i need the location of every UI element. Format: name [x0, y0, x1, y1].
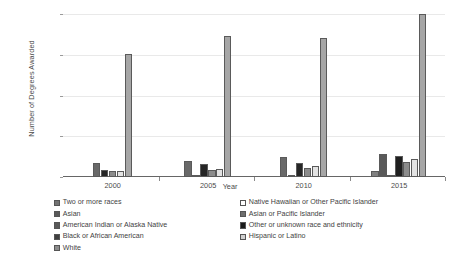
legend-swatch-icon: [54, 234, 60, 240]
legend-label: Asian or Pacific Islander: [249, 211, 325, 218]
legend-column-left: Two or more racesAsianAmerican Indian or…: [54, 197, 167, 254]
bar: [379, 154, 386, 177]
x-axis-title: Year: [0, 182, 460, 191]
bar: [387, 175, 394, 177]
bar: [192, 175, 199, 177]
bar: [184, 161, 191, 177]
legend-swatch-icon: [240, 234, 246, 240]
legend-item[interactable]: White: [54, 243, 167, 254]
legend-swatch-icon: [54, 200, 60, 206]
bar: [411, 159, 418, 177]
legend-item[interactable]: American Indian or Alaska Native: [54, 220, 167, 231]
bar-group-2010: 2010: [280, 14, 328, 177]
legend-swatch-icon: [54, 245, 60, 251]
group-bars: [371, 14, 427, 177]
y-tick-mark: [60, 96, 63, 97]
bar: [395, 156, 402, 177]
bar: [403, 162, 410, 177]
bar: [109, 171, 116, 177]
bar: [101, 170, 108, 177]
legend-label: Other or unknown race and ethnicity: [249, 222, 363, 229]
bar: [200, 164, 207, 177]
group-bars: [93, 14, 133, 177]
y-tick-mark: [60, 55, 63, 56]
bar-group-2005: 2005: [184, 14, 232, 177]
chart-legend: Two or more racesAsianAmerican Indian or…: [0, 197, 460, 259]
bar: [280, 157, 287, 177]
bar-group-2015: 2015: [371, 14, 427, 177]
legend-label: Two or more races: [63, 199, 122, 206]
y-tick-mark: [60, 14, 63, 15]
legend-label: Native Hawaiian or Other Pacific Islande…: [249, 199, 378, 206]
bar-group-2000: 2000: [93, 14, 133, 177]
bar: [93, 163, 100, 177]
bar: [312, 166, 319, 177]
legend-item[interactable]: Two or more races: [54, 197, 167, 208]
legend-label: Asian: [63, 211, 81, 218]
legend-label: Hispanic or Latino: [249, 233, 306, 240]
bar-chart: Number of Degrees Awarded 05,00010,00015…: [0, 0, 460, 261]
x-tick-mark: [254, 177, 255, 181]
bar: [371, 171, 378, 177]
bar: [419, 14, 426, 177]
legend-swatch-icon: [54, 211, 60, 217]
legend-item[interactable]: Hispanic or Latino: [240, 231, 378, 242]
bar: [224, 36, 231, 177]
legend-label: Black or African American: [63, 233, 144, 240]
x-tick-mark: [159, 177, 160, 181]
y-axis-title: Number of Degrees Awarded: [27, 9, 36, 169]
x-tick-mark: [445, 177, 446, 181]
bar: [125, 54, 132, 177]
legend-item[interactable]: Asian: [54, 208, 167, 219]
bar: [117, 171, 124, 177]
bar: [216, 169, 223, 177]
legend-item[interactable]: Asian or Pacific Islander: [240, 208, 378, 219]
legend-label: American Indian or Alaska Native: [63, 222, 168, 229]
legend-swatch-icon: [240, 222, 246, 228]
legend-swatch-icon: [54, 222, 60, 228]
legend-item[interactable]: Other or unknown race and ethnicity: [240, 220, 378, 231]
y-tick-mark: [60, 177, 63, 178]
legend-label: White: [63, 245, 81, 252]
y-tick-mark: [60, 136, 63, 137]
legend-column-right: Native Hawaiian or Other Pacific Islande…: [240, 197, 378, 243]
group-bars: [280, 14, 328, 177]
legend-swatch-icon: [240, 211, 246, 217]
bar: [320, 38, 327, 177]
bar: [304, 168, 311, 177]
legend-item[interactable]: Black or African American: [54, 231, 167, 242]
x-tick-mark: [350, 177, 351, 181]
plot-area: 05,00010,00015,00020,0002000200520102015: [63, 14, 445, 177]
bar: [288, 175, 295, 177]
bar: [208, 170, 215, 177]
legend-swatch-icon: [240, 200, 246, 206]
bar: [296, 163, 303, 177]
legend-item[interactable]: Native Hawaiian or Other Pacific Islande…: [240, 197, 378, 208]
group-bars: [184, 14, 232, 177]
